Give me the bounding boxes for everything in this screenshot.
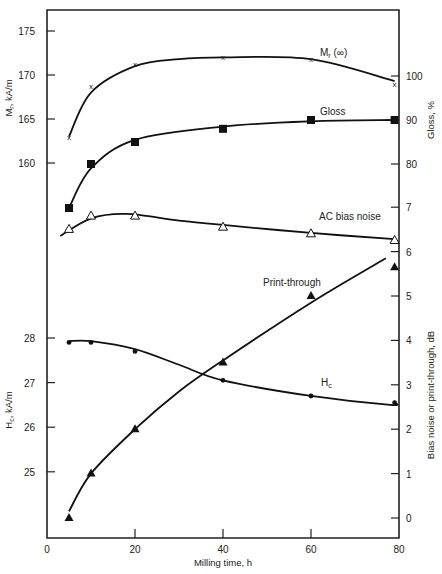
marker-x: x xyxy=(89,82,93,91)
marker-filled-square xyxy=(219,125,227,133)
right-tick-label: 80 xyxy=(406,159,418,170)
marker-filled-square xyxy=(87,160,95,168)
x-tick-label: 0 xyxy=(44,544,50,555)
left-tick-label: 170 xyxy=(18,70,35,81)
marker-filled-triangle xyxy=(390,262,399,270)
curve-gloss xyxy=(69,120,395,208)
left-tick-label: 26 xyxy=(24,422,36,433)
right-tick-label: 2 xyxy=(406,424,412,435)
marker-x: x xyxy=(393,80,397,89)
left-tick-label: 160 xyxy=(18,158,35,169)
hc-series-label: Hc xyxy=(321,377,332,389)
gloss-axis-title: Gloss, % xyxy=(425,100,436,139)
axis-ticks: 0204060801601651701752526272880901000123… xyxy=(18,26,423,555)
right-tick-label: 100 xyxy=(406,71,423,82)
curve-mr- xyxy=(69,57,395,137)
marker-open-triangle xyxy=(87,211,96,219)
marker-filled-square xyxy=(307,116,315,124)
left-tick-label: 25 xyxy=(24,467,36,478)
x-tick-label: 80 xyxy=(393,544,405,555)
marker-filled-square xyxy=(131,138,139,146)
marker-filled-circle xyxy=(392,400,397,405)
marker-filled-circle xyxy=(221,378,226,383)
mr-axis-title: Mr, kA/m xyxy=(3,79,15,116)
marker-filled-square xyxy=(65,204,73,212)
plot-frame xyxy=(47,10,399,538)
db-axis-title: Bias noise or print-through, dB xyxy=(425,331,436,459)
marker-filled-circle xyxy=(67,340,72,345)
gloss-series-label: Gloss xyxy=(320,106,346,117)
right-tick-label: 90 xyxy=(406,115,418,126)
marker-x: x xyxy=(309,55,313,64)
right-tick-label: 6 xyxy=(406,247,412,258)
right-tick-label: 7 xyxy=(406,202,412,213)
x-tick-label: 60 xyxy=(305,544,317,555)
curve-hc xyxy=(69,341,398,406)
right-tick-label: 1 xyxy=(406,469,412,480)
marker-filled-triangle xyxy=(65,513,74,521)
series-markers: xxxxxx xyxy=(65,53,400,521)
ac-bias-noise-label: AC bias noise xyxy=(319,211,381,222)
right-tick-label: 3 xyxy=(406,380,412,391)
marker-x: x xyxy=(67,133,71,142)
marker-x: x xyxy=(221,53,225,62)
curve-print-through xyxy=(69,258,386,511)
x-axis-title: Milling time, h xyxy=(194,557,252,568)
left-tick-label: 28 xyxy=(24,333,36,344)
right-tick-label: 0 xyxy=(406,513,412,524)
marker-open-triangle xyxy=(219,222,228,230)
x-tick-label: 40 xyxy=(217,544,229,555)
left-tick-label: 27 xyxy=(24,378,36,389)
marker-filled-circle xyxy=(133,349,138,354)
marker-filled-triangle xyxy=(307,291,316,299)
x-tick-label: 20 xyxy=(129,544,141,555)
left-tick-label: 175 xyxy=(18,26,35,37)
hc-axis-title: Hc, kA/m xyxy=(3,391,15,428)
series-curves xyxy=(60,57,397,512)
left-tick-label: 165 xyxy=(18,114,35,125)
marker-filled-square xyxy=(391,116,399,124)
right-tick-label: 4 xyxy=(406,335,412,346)
marker-x: x xyxy=(133,60,137,69)
mr-series-label: Mr (∞) xyxy=(320,47,347,59)
milling-time-chart: 0204060801601651701752526272880901000123… xyxy=(0,0,442,574)
print-through-label: Print-through xyxy=(263,277,321,288)
right-tick-label: 5 xyxy=(406,291,412,302)
marker-filled-circle xyxy=(89,340,94,345)
marker-filled-circle xyxy=(309,394,314,399)
plot-border xyxy=(47,10,399,538)
